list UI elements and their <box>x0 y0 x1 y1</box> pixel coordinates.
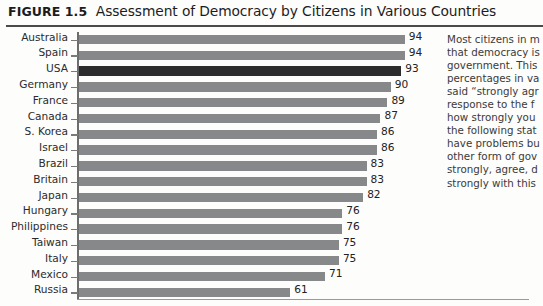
bar <box>79 161 367 170</box>
bar-category-label: Canada <box>0 110 68 122</box>
bar-category-label: USA <box>0 62 68 74</box>
bar-value-label: 71 <box>329 267 342 279</box>
bar <box>79 240 339 249</box>
caption-line: government. This <box>447 59 543 72</box>
bar-category-label: Mexico <box>0 268 68 280</box>
axis-tick <box>71 103 78 104</box>
axis-tick <box>71 71 78 72</box>
bar-category-label: Israel <box>0 141 68 153</box>
caption-paragraph: Most citizens in mthat democracy isgover… <box>447 33 543 190</box>
bar <box>79 145 377 154</box>
caption-line: said “strongly agr <box>447 85 543 98</box>
caption-line: response to the f <box>447 98 543 111</box>
bar-value-label: 93 <box>405 62 418 74</box>
bar <box>79 224 342 233</box>
bar-value-label: 83 <box>371 173 384 185</box>
bar-category-label: Russia <box>0 283 68 295</box>
bar-value-label: 82 <box>367 188 380 200</box>
bar-value-label: 61 <box>294 283 307 295</box>
bar <box>79 114 380 123</box>
bar-value-label: 86 <box>381 141 394 153</box>
bar-category-label: Hungary <box>0 204 68 216</box>
figure-title: FIGURE 1.5 Assessment of Democracy by Ci… <box>8 3 496 19</box>
caption-line: strongly, agree, d <box>447 163 543 176</box>
caption-line: the following stat <box>447 124 543 137</box>
bar-value-label: 76 <box>346 220 359 232</box>
bar-value-label: 86 <box>381 125 394 137</box>
bar-value-label: 94 <box>409 30 422 42</box>
axis-tick <box>71 182 78 183</box>
axis-tick <box>71 277 78 278</box>
chart-baseline-rule <box>77 299 529 300</box>
bar-value-label: 75 <box>343 252 356 264</box>
axis-tick <box>71 213 78 214</box>
bar-value-label: 94 <box>409 46 422 58</box>
title-divider-rule <box>6 25 543 27</box>
axis-tick <box>71 40 78 41</box>
caption-line: Most citizens in m <box>447 33 543 46</box>
bar-category-label: Philippines <box>0 220 68 232</box>
axis-tick <box>71 245 78 246</box>
figure-header: FIGURE 1.5 Assessment of Democracy by Ci… <box>0 0 543 28</box>
axis-tick <box>71 87 78 88</box>
axis-tick <box>71 55 78 56</box>
bar-value-label: 76 <box>346 204 359 216</box>
bar <box>79 272 325 281</box>
bar-value-label: 87 <box>384 109 397 121</box>
bar-value-label: 83 <box>371 157 384 169</box>
bar <box>79 256 339 265</box>
figure-title-text: Assessment of Democracy by Citizens in V… <box>87 3 496 19</box>
bar-category-label: France <box>0 94 68 106</box>
bar <box>79 177 367 186</box>
bar-category-label: Italy <box>0 252 68 264</box>
bar-value-label: 89 <box>391 94 404 106</box>
axis-tick <box>71 119 78 120</box>
bar-category-label: Japan <box>0 189 68 201</box>
axis-tick <box>71 134 78 135</box>
bar <box>79 130 377 139</box>
bar <box>79 98 387 107</box>
caption-line: how strongly you <box>447 111 543 124</box>
bar-value-label: 90 <box>395 78 408 90</box>
bar-category-label: Spain <box>0 46 68 58</box>
bar <box>79 82 391 91</box>
axis-tick <box>71 150 78 151</box>
bar <box>79 288 290 297</box>
bar <box>79 35 405 44</box>
bar-category-label: Taiwan <box>0 236 68 248</box>
bar <box>79 51 405 60</box>
bar <box>79 209 342 218</box>
bar-category-label: S. Korea <box>0 125 68 137</box>
bar-category-label: Britain <box>0 173 68 185</box>
bar-category-label: Germany <box>0 78 68 90</box>
axis-tick <box>71 292 78 293</box>
caption-line: have problems bu <box>447 137 543 150</box>
axis-tick <box>71 229 78 230</box>
caption-line: percentages in va <box>447 72 543 85</box>
axis-tick <box>71 261 78 262</box>
caption-line: that democracy is <box>447 46 543 59</box>
axis-tick <box>71 166 78 167</box>
caption-line: strongly with this <box>447 177 543 190</box>
caption-text-block: Most citizens in mthat democracy isgover… <box>447 33 543 243</box>
bar-value-label: 75 <box>343 236 356 248</box>
bar <box>79 193 363 202</box>
bar-category-label: Australia <box>0 31 68 43</box>
bar-chart: Australia94Spain94USA93Germany90France89… <box>0 30 440 306</box>
caption-line: other form of gov <box>447 150 543 163</box>
bar-category-label: Brazil <box>0 157 68 169</box>
bar <box>79 66 401 75</box>
figure-number-label: FIGURE 1.5 <box>8 4 87 19</box>
axis-tick <box>71 198 78 199</box>
